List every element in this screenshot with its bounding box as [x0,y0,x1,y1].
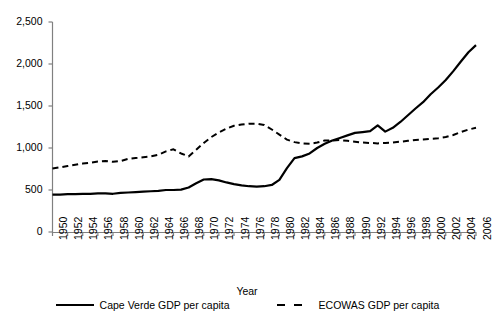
x-axis-tick-label: 1962 [148,217,160,240]
x-axis-tick-label: 1950 [57,217,69,240]
chart-series-line-ecowas [53,124,477,169]
x-axis-tick-label: 1968 [193,217,205,240]
chart-plot-area [0,0,494,323]
x-axis-tick-label: 1990 [360,217,372,240]
legend-solid-line-icon [55,300,95,310]
legend-label-ecowas: ECOWAS GDP per capita [319,299,440,311]
x-axis-tick-label: 1974 [239,217,251,240]
chart-series-group [53,45,477,195]
chart-axes [49,22,477,236]
legend-dashed-line-icon [274,300,314,310]
x-axis-tick-label: 1988 [344,217,356,240]
y-axis-tick-label: 1,000 [0,141,43,153]
x-axis-tick-label: 1976 [254,217,266,240]
chart-series-line-cape-verde [53,45,477,195]
x-axis-tick-label: 2002 [450,217,462,240]
x-axis-tick-label: 1970 [208,217,220,240]
y-axis-tick-label: 1,500 [0,99,43,111]
x-axis-tick-label: 1994 [390,217,402,240]
legend-item-ecowas: ECOWAS GDP per capita [274,299,440,311]
legend-item-cape-verde: Cape Verde GDP per capita [55,299,230,311]
x-axis-tick-label: 1954 [87,217,99,240]
x-axis-tick-label: 1952 [72,217,84,240]
x-axis-tick-label: 1972 [223,217,235,240]
chart-container: 05001,0001,5002,0002,500 195019521954195… [0,0,494,323]
y-axis-tick-label: 2,000 [0,57,43,69]
legend-label-cape-verde: Cape Verde GDP per capita [100,299,230,311]
x-axis-tick-label: 1998 [420,217,432,240]
x-axis-title: Year [0,285,494,297]
y-axis-tick-label: 2,500 [0,15,43,27]
x-axis-tick-label: 2004 [465,217,477,240]
x-axis-tick-label: 1966 [178,217,190,240]
x-axis-tick-label: 2000 [435,217,447,240]
x-axis-tick-label: 2006 [481,217,493,240]
x-axis-tick-label: 1982 [299,217,311,240]
x-axis-tick-label: 1958 [118,217,130,240]
y-axis-tick-label: 500 [0,183,43,195]
x-axis-tick-label: 1996 [405,217,417,240]
x-axis-tick-label: 1978 [269,217,281,240]
x-axis-tick-label: 1992 [375,217,387,240]
x-axis-tick-label: 1986 [329,217,341,240]
x-axis-tick-label: 1960 [133,217,145,240]
chart-legend: Cape Verde GDP per capita ECOWAS GDP per… [0,299,494,311]
y-axis-tick-label: 0 [0,225,43,237]
x-axis-tick-label: 1956 [102,217,114,240]
x-axis-tick-label: 1984 [314,217,326,240]
x-axis-tick-label: 1964 [163,217,175,240]
x-axis-tick-label: 1980 [284,217,296,240]
